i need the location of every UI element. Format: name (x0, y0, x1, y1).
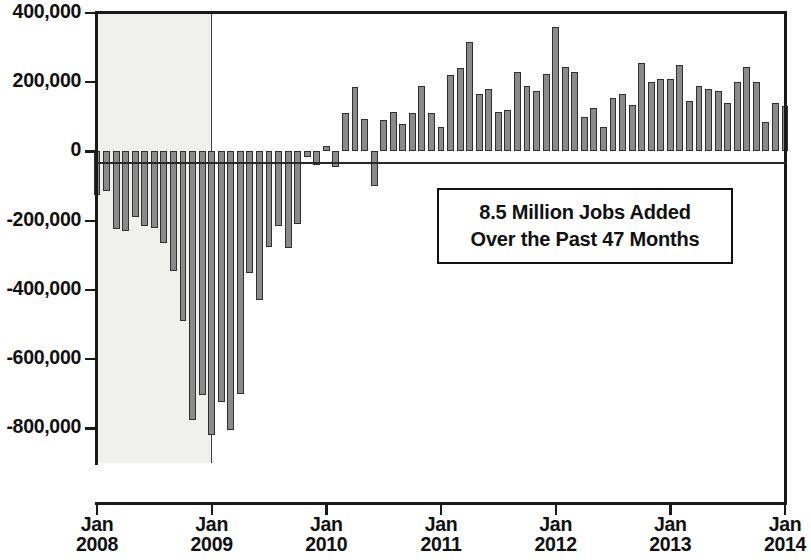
x-axis-label: Jan2014 (740, 514, 811, 554)
bar (667, 79, 674, 152)
y-axis-label: -600,000 (6, 346, 81, 369)
y-axis-tick (85, 289, 96, 291)
bar (495, 112, 502, 152)
bar (371, 151, 378, 186)
bar (208, 151, 215, 435)
x-axis-label-month: Jan (625, 514, 715, 534)
bar (657, 79, 664, 152)
bar (581, 117, 588, 152)
bar (571, 72, 578, 152)
bar (629, 105, 636, 152)
bar (438, 127, 445, 151)
bar (514, 72, 521, 152)
bar (103, 151, 110, 191)
x-axis-label-month: Jan (740, 514, 811, 534)
bar (724, 103, 731, 151)
y-axis-tick (85, 81, 96, 83)
y-axis-label: 200,000 (13, 69, 81, 92)
axis-y-line (95, 11, 98, 465)
bar (600, 127, 607, 151)
y-axis-label: -200,000 (6, 208, 81, 231)
bar (533, 91, 540, 152)
y-axis-tick (85, 358, 96, 360)
bar (342, 113, 349, 151)
y-axis-label: 0 (70, 138, 81, 161)
axis-top-border (95, 11, 787, 14)
bar (610, 98, 617, 152)
axis-right-border (784, 11, 787, 505)
bar (304, 151, 311, 156)
bar (227, 151, 234, 430)
bar (352, 87, 359, 151)
bar (237, 151, 244, 393)
bar (715, 91, 722, 152)
y-axis-tick (85, 150, 96, 152)
x-axis-label-year: 2010 (281, 534, 371, 554)
bar (380, 120, 387, 151)
bar (476, 94, 483, 151)
bar (524, 86, 531, 152)
bar (189, 151, 196, 419)
bar (160, 151, 167, 243)
bar (772, 103, 779, 151)
bar (686, 101, 693, 151)
bar (743, 67, 750, 152)
bar (170, 151, 177, 270)
bar (332, 151, 339, 167)
y-axis-label: -800,000 (6, 415, 81, 438)
bar (676, 65, 683, 152)
x-axis-label-year: 2011 (396, 534, 486, 554)
bar (246, 151, 253, 272)
bar (485, 89, 492, 151)
x-axis-label-year: 2008 (52, 534, 142, 554)
x-axis-label-month: Jan (396, 514, 486, 534)
bar (705, 89, 712, 151)
bar (428, 113, 435, 151)
x-axis-label-year: 2014 (740, 534, 811, 554)
x-axis-label-month: Jan (281, 514, 371, 534)
x-axis-label-year: 2012 (511, 534, 601, 554)
x-axis-label: Jan2008 (52, 514, 142, 554)
x-axis-label: Jan2009 (167, 514, 257, 554)
bar (323, 146, 330, 151)
annotation-line-1: 8.5 Million Jobs Added (439, 199, 731, 226)
bar (562, 67, 569, 152)
bar (552, 27, 559, 152)
bar (543, 74, 550, 152)
bar (199, 151, 206, 395)
bar (256, 151, 263, 300)
x-axis-label: Jan2012 (511, 514, 601, 554)
y-axis-tick (85, 220, 96, 222)
x-axis-label: Jan2011 (396, 514, 486, 554)
bar (696, 86, 703, 152)
y-axis-label: 400,000 (13, 0, 81, 23)
y-axis-tick (85, 427, 96, 429)
bar (457, 68, 464, 151)
annotation-box: 8.5 Million Jobs Added Over the Past 47 … (437, 188, 733, 264)
bar (638, 63, 645, 151)
bar (648, 82, 655, 151)
bar (409, 113, 416, 151)
bar (180, 151, 187, 321)
bar (390, 112, 397, 152)
x-axis-label-month: Jan (167, 514, 257, 534)
bar (266, 151, 273, 246)
bar (619, 94, 626, 151)
bar (399, 124, 406, 152)
x-axis-label-year: 2013 (625, 534, 715, 554)
annotation-line-2: Over the Past 47 Months (439, 226, 731, 253)
bar (285, 151, 292, 248)
x-axis-label-month: Jan (52, 514, 142, 534)
bar (447, 75, 454, 151)
zero-baseline (97, 162, 785, 164)
bar (590, 108, 597, 151)
bar (762, 122, 769, 151)
bar (361, 119, 368, 152)
bar (218, 151, 225, 402)
x-axis-label: Jan2010 (281, 514, 371, 554)
bar (753, 82, 760, 151)
bar (418, 86, 425, 152)
bar (734, 82, 741, 151)
y-axis-tick (85, 12, 96, 14)
